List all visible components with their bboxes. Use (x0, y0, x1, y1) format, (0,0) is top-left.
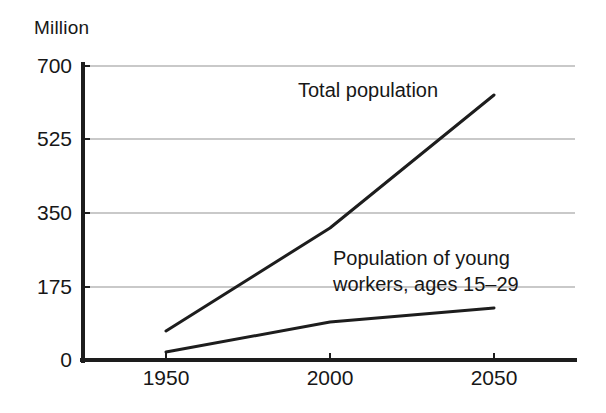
series-label-young-workers: Population of young workers, ages 15–29 (333, 246, 519, 297)
series-line-young-workers (166, 308, 494, 352)
population-line-chart: Million 700 525 350 175 0 1950 2000 2050… (0, 0, 606, 413)
y-tick-label-350: 350 (8, 202, 72, 223)
x-tick-label-2050: 2050 (444, 367, 544, 388)
y-tick-label-0: 0 (8, 349, 72, 370)
y-tick-label-525: 525 (8, 128, 72, 149)
plot-area (0, 0, 606, 413)
y-tick-label-700: 700 (8, 55, 72, 76)
x-tick-label-1950: 1950 (116, 367, 216, 388)
x-tick-label-2000: 2000 (280, 367, 380, 388)
series-label-total-population: Total population (298, 78, 438, 104)
y-tick-label-175: 175 (8, 276, 72, 297)
